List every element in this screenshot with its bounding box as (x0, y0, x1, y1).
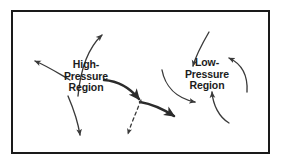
arrow-center-dashed-downflow (128, 100, 141, 134)
arrow-high-to-low-lower-bold (140, 102, 174, 116)
label-high-pressure-line3: Region (57, 82, 115, 94)
arrow-low-pressure-inflow-bottom (212, 92, 229, 123)
pressure-circulation-figure: High- Pressure Region Low- Pressure Regi… (0, 0, 283, 167)
label-low-pressure-line1: Low- (179, 57, 235, 69)
label-high-pressure-region: High- Pressure Region (57, 59, 115, 94)
label-low-pressure-line3: Region (179, 80, 235, 92)
label-low-pressure-region: Low- Pressure Region (179, 57, 235, 92)
airflow-arrows-canvas (0, 0, 283, 167)
arrow-high-pressure-outflow-down (68, 96, 80, 135)
label-high-pressure-line1: High- (57, 59, 115, 71)
